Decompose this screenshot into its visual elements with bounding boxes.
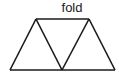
- diagonal-right-inner: [62, 19, 89, 70]
- right-outer-edge: [89, 19, 115, 70]
- left-outer-edge: [10, 19, 36, 70]
- diagonal-left-inner: [36, 19, 62, 70]
- fold-diagram: fold: [0, 0, 119, 77]
- fold-label: fold: [50, 1, 94, 15]
